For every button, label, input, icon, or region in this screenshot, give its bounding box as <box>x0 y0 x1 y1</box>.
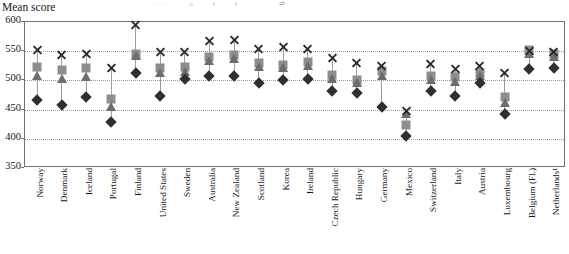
x-tick-label: Italy <box>453 168 463 185</box>
x-tick-label: Luxembourg <box>502 168 512 215</box>
gridline <box>25 139 564 140</box>
x-marker <box>253 44 264 55</box>
triangle-marker <box>500 98 510 107</box>
diamond-marker <box>523 63 534 74</box>
x-marker <box>474 61 485 72</box>
diamond-marker <box>400 131 411 142</box>
diamond-marker <box>450 90 461 101</box>
x-marker <box>302 43 313 54</box>
x-tick-label: Switzerland <box>428 168 438 212</box>
x-marker <box>106 63 117 74</box>
x-marker <box>351 57 362 68</box>
triangle-marker <box>32 71 42 80</box>
y-tick-label: 600 <box>0 15 21 26</box>
triangle-marker <box>278 63 288 72</box>
x-marker <box>376 60 387 71</box>
triangle-marker <box>327 74 337 83</box>
x-tick-label: Denmark <box>59 168 69 202</box>
diamond-marker <box>81 92 92 103</box>
triangle-marker <box>303 61 313 70</box>
triangle-marker <box>450 77 460 86</box>
plot-area <box>24 21 565 167</box>
triangle-marker <box>229 54 239 63</box>
x-marker <box>327 52 338 63</box>
triangle-marker <box>131 51 141 60</box>
x-marker <box>524 45 535 56</box>
x-marker <box>450 64 461 75</box>
diamond-marker <box>351 87 362 98</box>
legend-fragment-2: I <box>213 0 217 8</box>
diamond-marker <box>302 73 313 84</box>
x-marker <box>401 106 412 117</box>
legend-fragment-5: ⇄ <box>279 0 287 8</box>
legend-fragment-4: · <box>257 0 261 8</box>
chart-root: ····· o I I · ⇄ Mean score 3504004505005… <box>0 0 569 254</box>
diamond-marker <box>155 90 166 101</box>
x-tick-label: United States <box>158 168 168 217</box>
legend-fragment-3: I <box>235 0 239 8</box>
gridline <box>25 51 564 52</box>
diamond-marker <box>253 78 264 89</box>
triangle-marker <box>81 73 91 82</box>
square-marker <box>82 64 91 73</box>
triangle-marker <box>106 102 116 111</box>
x-marker <box>56 50 67 61</box>
x-axis-tick-labels: NorwayDenmarkIcelandPortugalFinlandUnite… <box>0 168 569 254</box>
x-tick-label: New Zealand <box>231 168 241 217</box>
x-marker <box>548 46 559 57</box>
x-tick-label: Portugal <box>108 168 118 199</box>
x-tick-label: Scotland <box>256 168 266 200</box>
triangle-marker <box>254 62 264 71</box>
diamond-marker <box>130 68 141 79</box>
y-tick-label: 400 <box>0 132 21 143</box>
diamond-marker <box>376 101 387 112</box>
triangle-marker <box>57 74 67 83</box>
legend-fragment-1: o <box>189 0 195 8</box>
x-marker <box>81 49 92 60</box>
x-marker <box>32 45 43 56</box>
diamond-marker <box>425 85 436 96</box>
diamond-marker <box>105 117 116 128</box>
y-tick-label: 500 <box>0 73 21 84</box>
x-tick-label: Belgium (Fl.) <box>527 168 537 218</box>
diamond-marker <box>32 95 43 106</box>
x-marker <box>425 59 436 70</box>
x-tick-label: Iceland <box>84 168 94 195</box>
x-tick-label: Sweden <box>182 168 192 197</box>
x-marker <box>179 47 190 58</box>
x-marker <box>278 42 289 53</box>
x-tick-label: Australia <box>207 168 217 202</box>
diamond-marker <box>548 62 559 73</box>
y-tick-label: 550 <box>0 44 21 55</box>
diamond-marker <box>327 85 338 96</box>
x-tick-label: Germany <box>379 168 389 202</box>
x-tick-label: Netherlands¹ <box>551 168 561 215</box>
triangle-marker <box>155 68 165 77</box>
x-tick-label: Czech Republic <box>330 168 340 226</box>
x-marker <box>204 35 215 46</box>
y-tick-label: 450 <box>0 103 21 114</box>
triangle-marker <box>204 56 214 65</box>
legend-fragment-strip: ····· o I I · ⇄ <box>150 0 410 9</box>
legend-fragment-0: ····· <box>150 0 172 8</box>
x-tick-label: Austria <box>477 168 487 195</box>
x-marker <box>130 19 141 30</box>
diamond-marker <box>278 75 289 86</box>
x-tick-label: Mexico <box>404 168 414 196</box>
x-tick-label: Finland <box>133 168 143 196</box>
triangle-marker <box>377 71 387 80</box>
x-marker <box>499 67 510 78</box>
x-marker <box>155 47 166 58</box>
x-tick-label: Norway <box>35 168 45 198</box>
triangle-marker <box>352 78 362 87</box>
x-marker <box>229 34 240 45</box>
x-tick-label: Hungary <box>354 168 364 200</box>
x-tick-label: Korea <box>281 168 291 190</box>
square-marker <box>402 120 411 129</box>
x-tick-label: Ireland <box>305 168 315 194</box>
triangle-marker <box>426 75 436 84</box>
